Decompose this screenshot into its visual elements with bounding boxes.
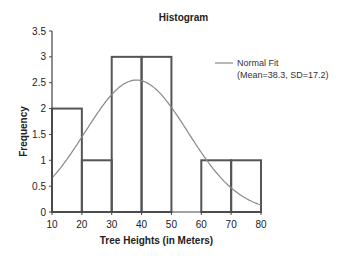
x-tick-label: 40 (136, 219, 148, 230)
y-tick-label: 0.5 (32, 181, 46, 192)
histogram-bar (231, 160, 261, 212)
histogram-bar (52, 109, 82, 212)
y-axis-label: Frequency (18, 106, 29, 157)
y-tick-label: 3 (40, 51, 46, 62)
histogram-bar (142, 57, 172, 212)
x-tick-label: 70 (226, 219, 238, 230)
x-axis-label: Tree Heights (in Meters) (100, 235, 213, 246)
histogram-bar (201, 160, 231, 212)
x-tick-label: 60 (196, 219, 208, 230)
x-tick-label: 30 (106, 219, 118, 230)
x-tick-label: 10 (46, 219, 58, 230)
y-tick-label: 1.5 (32, 129, 46, 140)
histogram-bar (82, 160, 112, 212)
y-tick-label: 3.5 (32, 26, 46, 37)
legend-params: (Mean=38.3, SD=17.2) (237, 70, 329, 80)
normal-fit-curve (52, 80, 261, 205)
y-tick-label: 2.5 (32, 77, 46, 88)
x-tick-label: 80 (255, 219, 267, 230)
legend-label: Normal Fit (237, 58, 279, 68)
y-tick-label: 1 (40, 155, 46, 166)
y-tick-label: 0 (40, 207, 46, 218)
y-tick-label: 2 (40, 103, 46, 114)
x-tick-label: 50 (166, 219, 178, 230)
x-tick-label: 20 (76, 219, 88, 230)
histogram-plot: 00.511.522.533.51020304050607080Tree Hei… (0, 0, 337, 260)
